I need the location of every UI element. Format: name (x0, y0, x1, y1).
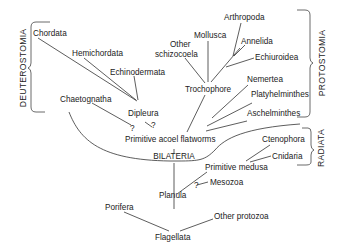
label-other-schizocoela-2: schizocoela (155, 50, 198, 59)
edge-porifera (124, 212, 169, 231)
label-planula: Planula (159, 191, 187, 200)
label-platyhelminthes: Platyhelminthes (251, 90, 309, 99)
label-aschelminthes: Aschelminthes (247, 109, 300, 118)
label-protostomia: PROTOSTOMIA (317, 30, 327, 97)
edge-platyhelminthes (207, 103, 252, 126)
label-primitive-medusa: Primitive medusa (205, 163, 268, 172)
edge-mesozoa (197, 182, 208, 185)
label-primitive-acoel-flatworms: Primitive acoel flatworms (125, 135, 216, 144)
label-radiata: RADIATA (316, 129, 326, 167)
label-nemertea: Nemertea (247, 75, 283, 84)
edge-flatworms-trochophore (187, 95, 205, 132)
edge-hemichordata (84, 58, 136, 100)
edge-aschelminthes (206, 121, 247, 131)
label-bilateria: BILATERIA (153, 152, 195, 161)
label-deuterostomia: DEUTEROSTOMIA (18, 29, 28, 108)
label-cnidaria: Cnidaria (272, 152, 303, 161)
label-ctenophora: Ctenophora (262, 135, 305, 144)
edge-annelid-lineage (211, 48, 240, 82)
protostomia-bracket (297, 10, 313, 117)
label-other-schizocoela-1: Other (170, 40, 191, 49)
mark-chaetognatha-uncertain: ? (130, 124, 135, 133)
mark-mesozoa-uncertain: ? (194, 181, 199, 190)
phylogenetic-tree-diagram: DEUTEROSTOMIA PROTOSTOMIA RADIATA BILATE… (0, 0, 342, 252)
label-echinodermata: Echinodermata (110, 68, 166, 77)
label-echiuroidea: Echiuroidea (255, 53, 299, 62)
edge-other-protozoa (180, 219, 213, 231)
label-hemichordata: Hemichordata (72, 49, 123, 58)
edge-other-schizocoela (185, 58, 205, 83)
label-dipleura: Dipleura (128, 109, 159, 118)
edge-ctenophora (246, 145, 270, 161)
edge-cnidaria (250, 156, 271, 162)
label-mollusca: Mollusca (194, 31, 227, 40)
label-annelida: Annelida (241, 37, 273, 46)
label-chaetognatha: Chaetognatha (60, 95, 112, 104)
label-chordata: Chordata (33, 29, 67, 38)
label-trochophore: Trochophore (185, 85, 232, 94)
mark-dipleura-uncertain: ? (151, 121, 156, 130)
label-other-protozoa: Other protozoa (214, 212, 269, 221)
label-porifera: Porifera (105, 203, 134, 212)
label-flagellata: Flagellata (155, 233, 191, 242)
label-mesozoa: Mesozoa (210, 178, 244, 187)
edge-echinodermata (134, 76, 138, 100)
label-arthropoda: Arthropoda (224, 13, 265, 22)
edge-chaetognatha (92, 103, 131, 125)
